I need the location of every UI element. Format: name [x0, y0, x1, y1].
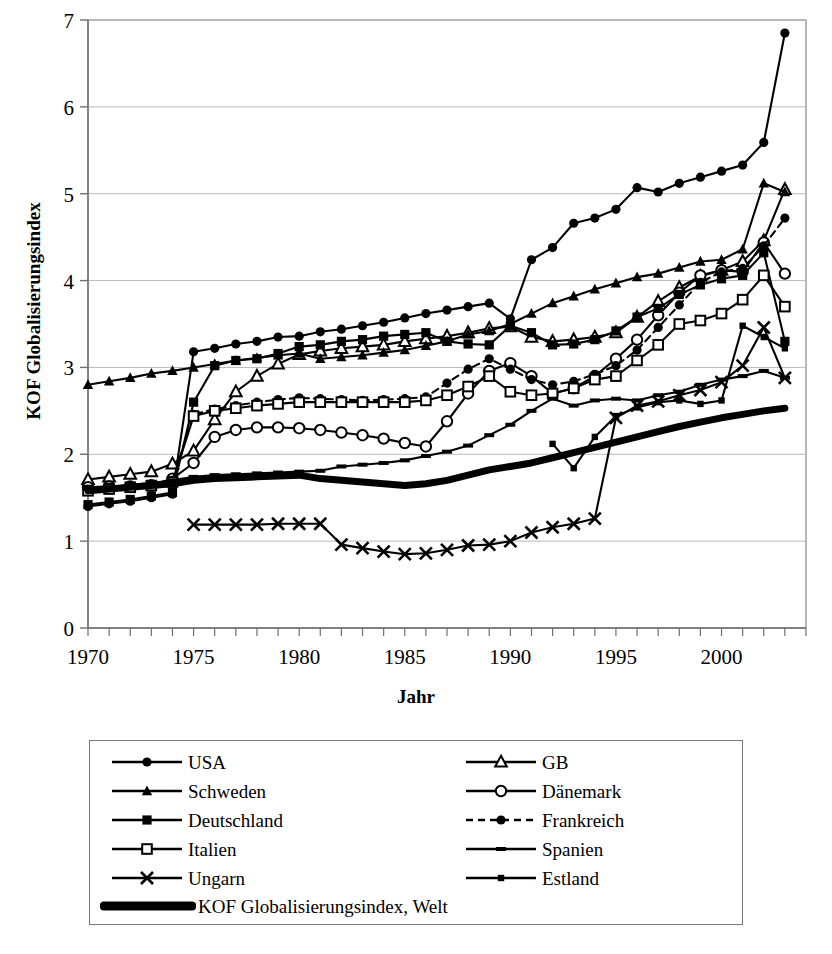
- marker-open-square: [252, 401, 262, 411]
- marker-small-square: [592, 434, 598, 440]
- marker-filled-circle: [717, 167, 726, 176]
- marker-filled-circle: [442, 378, 451, 387]
- marker-filled-circle: [142, 757, 151, 766]
- marker-filled-circle: [738, 160, 747, 169]
- marker-small-dash: [526, 409, 536, 413]
- marker-open-square: [231, 403, 241, 413]
- legend-label: Dänemark: [540, 782, 621, 801]
- marker-open-circle: [336, 427, 346, 437]
- legend-label: Spanien: [540, 840, 603, 859]
- x-tick-label-1970: 1970: [67, 645, 109, 669]
- legend-item[interactable]: Deutschland: [108, 807, 283, 833]
- marker-filled-circle: [316, 327, 325, 336]
- legend-item[interactable]: Ungarn: [108, 865, 245, 891]
- marker-small-dash: [358, 463, 368, 467]
- marker-filled-square: [400, 330, 409, 339]
- legend-item[interactable]: GB: [462, 749, 568, 775]
- legend-item[interactable]: Schweden: [108, 778, 266, 804]
- legend-item[interactable]: Italien: [108, 836, 237, 862]
- legend-item[interactable]: USA: [108, 749, 226, 775]
- marker-filled-square: [654, 304, 663, 313]
- legend-swatch: [108, 809, 186, 831]
- marker-open-square: [421, 396, 431, 406]
- marker-open-square: [442, 390, 452, 400]
- marker-open-square: [358, 397, 368, 407]
- legend-label: Schweden: [186, 782, 266, 801]
- legend-label: Italien: [186, 840, 237, 859]
- marker-small-dash: [738, 374, 748, 378]
- chart-legend: USASchwedenDeutschlandItalienUngarnGBDän…: [89, 740, 743, 925]
- marker-filled-circle: [780, 213, 789, 222]
- marker-open-square: [653, 340, 663, 350]
- legend-swatch: [462, 867, 540, 889]
- marker-small-dash: [379, 461, 389, 465]
- marker-filled-circle: [717, 267, 726, 276]
- marker-filled-circle: [442, 306, 451, 315]
- marker-open-circle: [378, 433, 388, 443]
- marker-small-square: [571, 465, 577, 471]
- marker-filled-circle: [379, 318, 388, 327]
- marker-filled-circle: [611, 361, 620, 370]
- legend-marker-icon: [108, 809, 186, 831]
- legend-marker-icon: [108, 780, 186, 802]
- marker-open-square: [590, 375, 600, 385]
- legend-swatch: [462, 838, 540, 860]
- chart-figure: 012345671970197519801985199019952000 KOF…: [0, 0, 832, 954]
- legend-item[interactable]: Spanien: [462, 836, 603, 862]
- marker-open-square: [717, 309, 727, 319]
- legend-swatch: [108, 838, 186, 860]
- marker-open-square: [611, 371, 621, 381]
- marker-open-circle: [315, 425, 325, 435]
- marker-small-dash: [590, 398, 600, 402]
- marker-filled-circle: [738, 264, 747, 273]
- y-tick-label-6: 6: [64, 96, 75, 120]
- legend-swatch: [462, 809, 540, 831]
- marker-filled-circle: [759, 138, 768, 147]
- marker-filled-circle: [675, 179, 684, 188]
- legend-item[interactable]: KOF Globalisierungsindex, Welt: [100, 893, 448, 919]
- marker-filled-square: [442, 337, 451, 346]
- marker-filled-square: [780, 337, 789, 346]
- marker-filled-circle: [496, 815, 505, 824]
- marker-open-circle: [400, 438, 410, 448]
- plot-area: 012345671970197519801985199019952000 KOF…: [0, 0, 832, 720]
- marker-open-circle: [231, 425, 241, 435]
- marker-small-square: [498, 875, 504, 881]
- marker-filled-circle: [421, 309, 430, 318]
- marker-small-dash: [400, 458, 410, 462]
- legend-item[interactable]: Frankreich: [462, 807, 624, 833]
- marker-filled-square: [590, 335, 599, 344]
- marker-open-square: [315, 397, 325, 407]
- marker-filled-square: [231, 356, 240, 365]
- legend-item[interactable]: Estland: [462, 865, 599, 891]
- marker-filled-square: [168, 488, 177, 497]
- legend-item[interactable]: Dänemark: [462, 778, 621, 804]
- marker-open-square: [189, 411, 199, 421]
- line-chart-svg: 012345671970197519801985199019952000: [0, 0, 832, 720]
- marker-open-square: [696, 316, 706, 326]
- marker-filled-square: [379, 332, 388, 341]
- marker-filled-circle: [780, 28, 789, 37]
- y-tick-label-7: 7: [64, 9, 75, 33]
- marker-filled-square: [142, 815, 151, 824]
- marker-filled-circle: [569, 219, 578, 228]
- marker-open-square: [527, 390, 537, 400]
- marker-small-dash: [484, 433, 494, 437]
- marker-open-square: [463, 382, 473, 392]
- marker-filled-square: [485, 340, 494, 349]
- legend-marker-icon: [108, 751, 186, 773]
- marker-small-square: [676, 397, 682, 403]
- marker-open-square: [780, 302, 790, 312]
- legend-swatch: [100, 895, 196, 917]
- marker-filled-square: [337, 337, 346, 346]
- marker-small-square: [549, 441, 555, 447]
- marker-filled-square: [421, 328, 430, 337]
- marker-filled-circle: [506, 365, 515, 374]
- marker-open-square: [142, 844, 152, 854]
- marker-small-square: [634, 404, 640, 410]
- legend-label: KOF Globalisierungsindex, Welt: [196, 897, 448, 916]
- marker-open-square: [484, 371, 494, 381]
- marker-filled-square: [83, 500, 92, 509]
- marker-filled-square: [295, 342, 304, 351]
- marker-filled-circle: [400, 313, 409, 322]
